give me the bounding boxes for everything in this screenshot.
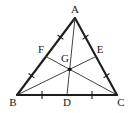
geometry-figure: A B C D E F G (0, 0, 130, 113)
label-A: A (71, 3, 79, 15)
triangle-centroid-diagram: A B C D E F G (0, 0, 130, 113)
label-C: C (117, 96, 124, 108)
label-D: D (63, 96, 71, 108)
label-G: G (61, 52, 69, 64)
label-E: E (97, 43, 104, 55)
centroid-point-dot (68, 67, 72, 71)
label-B: B (9, 96, 16, 108)
label-F: F (38, 43, 44, 55)
